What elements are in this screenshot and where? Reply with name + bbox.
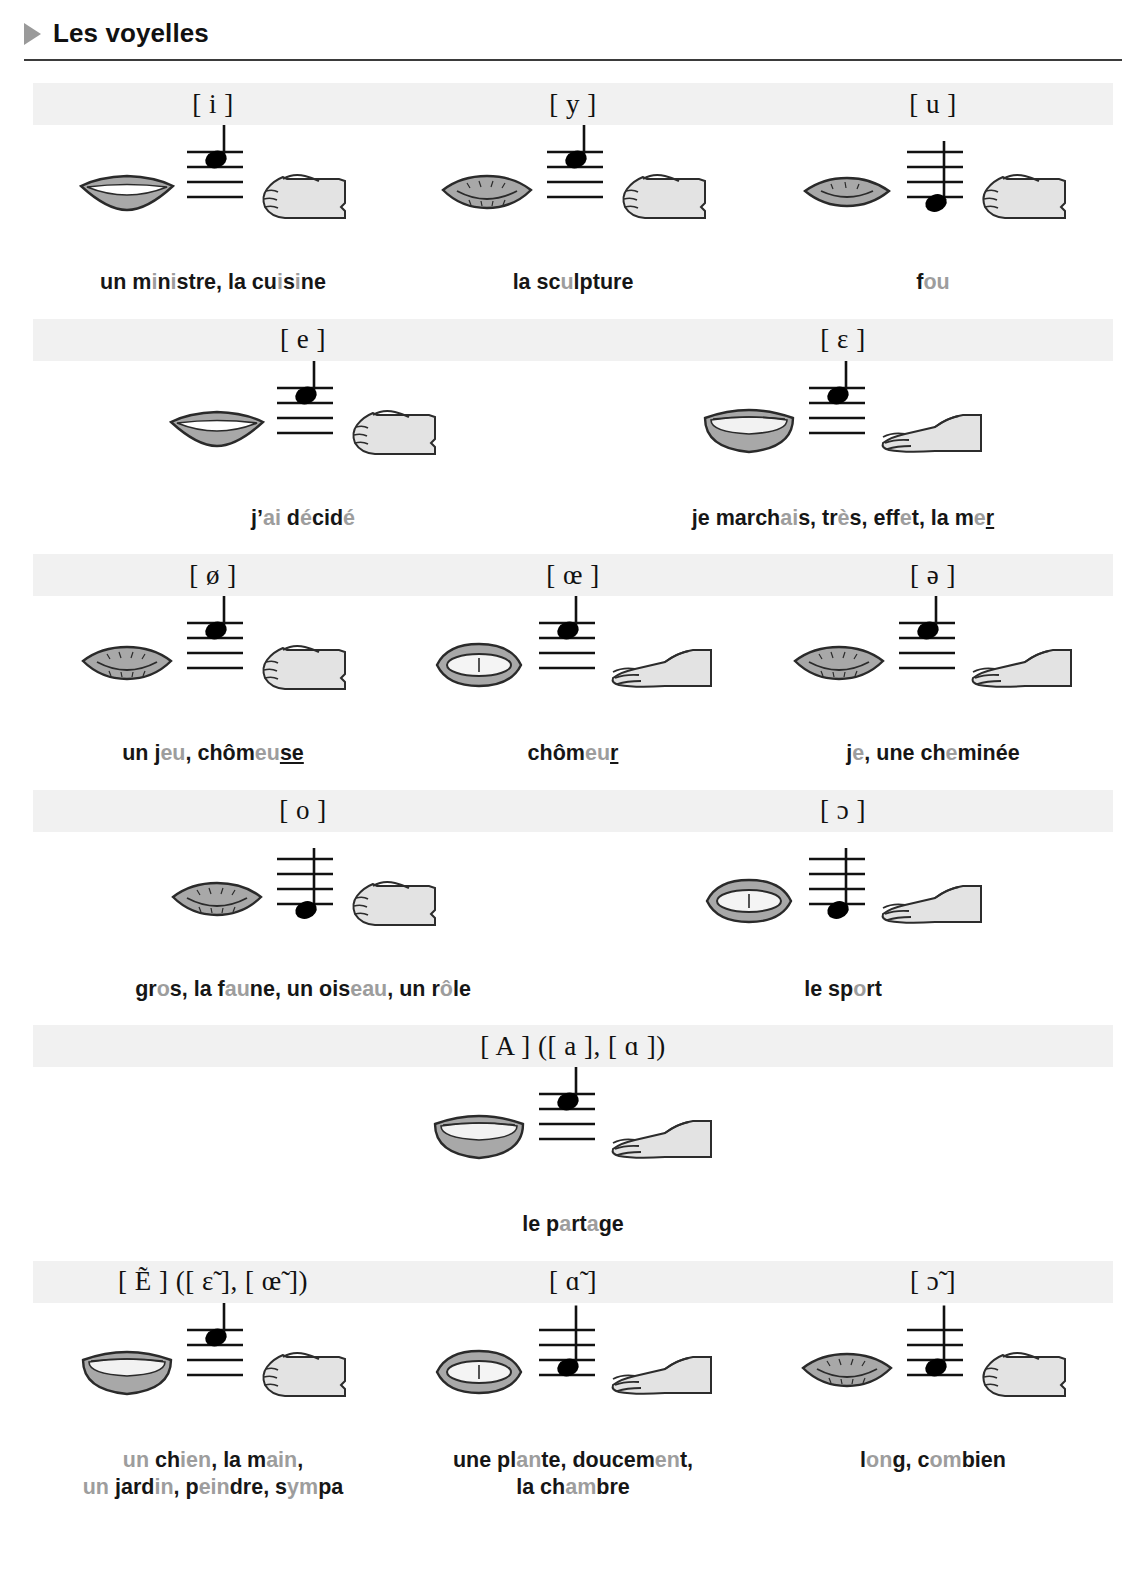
example-highlight: eu xyxy=(255,741,280,765)
articulation-figure xyxy=(429,1309,717,1437)
ipa-header-band: [ e ][ ɛ ] xyxy=(33,319,1113,361)
ipa-symbol: [ i ] xyxy=(192,89,233,119)
example-line: gros, la faune, un oiseau, un rôle xyxy=(135,976,471,1004)
articulation-figure xyxy=(797,1309,1069,1437)
hand-gesture-icon xyxy=(253,638,349,694)
page-title: Les voyelles xyxy=(53,18,209,49)
vowel-row: [ i ][ y ][ u ] un ministre, la cuisine … xyxy=(0,83,1146,297)
example-highlight: e xyxy=(900,506,912,530)
mouth-shape-icon xyxy=(77,1348,177,1398)
ipa-symbol: [ ø ] xyxy=(189,560,236,590)
example-line: je, une cheminée xyxy=(846,740,1019,768)
example-text: rt xyxy=(866,977,882,1001)
example-words: un chien, la main,un jardin, peindre, sy… xyxy=(83,1447,344,1502)
example-line: un jeu, chômeuse xyxy=(122,740,304,768)
example-highlight: é xyxy=(343,506,355,530)
articulation-figure xyxy=(429,602,717,730)
example-line: fou xyxy=(916,269,949,297)
vowel-rows: [ i ][ y ][ u ] un ministre, la cuisine … xyxy=(0,83,1146,1502)
ipa-symbol: [ e ] xyxy=(280,324,326,354)
example-highlight: a xyxy=(587,1212,599,1236)
header-divider xyxy=(24,59,1122,61)
example-text: la ch xyxy=(516,1475,565,1499)
ipa-symbol: [ Ẽ ] xyxy=(118,1266,168,1296)
example-words: je, une cheminée xyxy=(846,740,1019,768)
musical-staff-icon xyxy=(897,647,957,685)
example-highlight: ain xyxy=(266,1448,297,1472)
vowel-row-body: un ministre, la cuisine la sculpture fou xyxy=(33,125,1113,297)
example-text: le xyxy=(453,977,471,1001)
vowel-cell: la sculpture xyxy=(393,125,753,297)
hand-gesture-icon xyxy=(343,403,439,459)
mouth-shape-icon xyxy=(77,641,177,691)
ipa-symbol: [ u ] xyxy=(909,89,956,119)
mouth-shape-icon xyxy=(797,1348,897,1398)
vowel-cell: j’ai décidé xyxy=(33,361,573,533)
hand-gesture-icon xyxy=(605,1345,717,1401)
example-words: une plante, doucement,la chambre xyxy=(453,1447,693,1502)
example-text: se xyxy=(280,741,304,765)
vowel-cell: le partage xyxy=(33,1067,1113,1239)
hand-gesture-icon xyxy=(343,874,439,930)
mouth-shape-icon xyxy=(699,406,799,456)
vowel-cell: je, une cheminée xyxy=(753,596,1113,768)
vowel-cell: fou xyxy=(753,125,1113,297)
example-text: le p xyxy=(522,1212,559,1236)
articulation-figure xyxy=(429,1073,717,1201)
example-highlight: eau xyxy=(350,977,387,1001)
example-text: gr xyxy=(135,977,157,1001)
example-words: chômeur xyxy=(528,740,619,768)
example-highlight: au xyxy=(225,977,250,1001)
example-highlight: ai xyxy=(263,506,281,530)
hand-gesture-icon xyxy=(965,638,1077,694)
ipa-header-cell: [ ɑ̃ ] xyxy=(393,1266,753,1297)
ipa-header-band: [ Ẽ ] ([ ɛ̃ ], [ œ̃ ])[ ɑ̃ ][ ɔ̃ ] xyxy=(33,1261,1113,1303)
vowel-cell: un jeu, chômeuse xyxy=(33,596,393,768)
example-text: te, doucem xyxy=(541,1448,655,1472)
articulation-figure xyxy=(699,367,987,495)
example-words: la sculpture xyxy=(513,269,634,297)
example-highlight: am xyxy=(565,1475,596,1499)
hand-gesture-icon xyxy=(875,403,987,459)
musical-staff-icon xyxy=(545,176,605,214)
articulation-figure xyxy=(789,602,1077,730)
example-words: je marchais, très, effet, la mer xyxy=(692,505,994,533)
example-text: , un r xyxy=(387,977,440,1001)
example-text: , chôm xyxy=(186,741,255,765)
mouth-shape-icon xyxy=(797,170,897,220)
example-highlight: om xyxy=(929,1448,961,1472)
example-text: un j xyxy=(122,741,160,765)
example-words: fou xyxy=(916,269,949,297)
example-highlight: e xyxy=(852,741,864,765)
example-highlight: in xyxy=(154,1475,173,1499)
musical-staff-icon xyxy=(905,176,965,214)
articulation-figure xyxy=(699,838,987,966)
example-words: j’ai décidé xyxy=(251,505,355,533)
example-text: je march xyxy=(692,506,780,530)
example-highlight: e xyxy=(974,506,986,530)
vowel-cell: gros, la faune, un oiseau, un rôle xyxy=(33,832,573,1004)
example-highlight: un xyxy=(123,1448,149,1472)
articulation-figure xyxy=(797,131,1069,259)
example-text: , xyxy=(297,1448,303,1472)
example-text: le sp xyxy=(804,977,853,1001)
vowel-cell: long, combien xyxy=(753,1303,1113,1502)
ipa-symbol: [ ɛ ] xyxy=(820,324,865,354)
example-words: long, combien xyxy=(860,1447,1006,1475)
articulation-figure xyxy=(77,131,349,259)
example-line: la sculpture xyxy=(513,269,634,297)
example-words: gros, la faune, un oiseau, un rôle xyxy=(135,976,471,1004)
ipa-symbol: [ ɔ ] xyxy=(820,795,866,825)
vowel-row-body: j’ai décidé je marchais, très, effet, la… xyxy=(33,361,1113,533)
example-text: dre, s xyxy=(230,1475,287,1499)
articulation-figure xyxy=(77,1309,349,1437)
vowel-row-body: un jeu, chômeuse chômeur je, une cheminé… xyxy=(33,596,1113,768)
musical-staff-icon xyxy=(537,1354,597,1392)
example-text: cid xyxy=(312,506,343,530)
example-highlight: on xyxy=(866,1448,892,1472)
example-line: un chien, la main, xyxy=(83,1447,344,1475)
example-highlight: ai xyxy=(780,506,798,530)
example-highlight: a xyxy=(559,1212,571,1236)
example-text: r xyxy=(610,741,618,765)
example-text: jard xyxy=(109,1475,154,1499)
